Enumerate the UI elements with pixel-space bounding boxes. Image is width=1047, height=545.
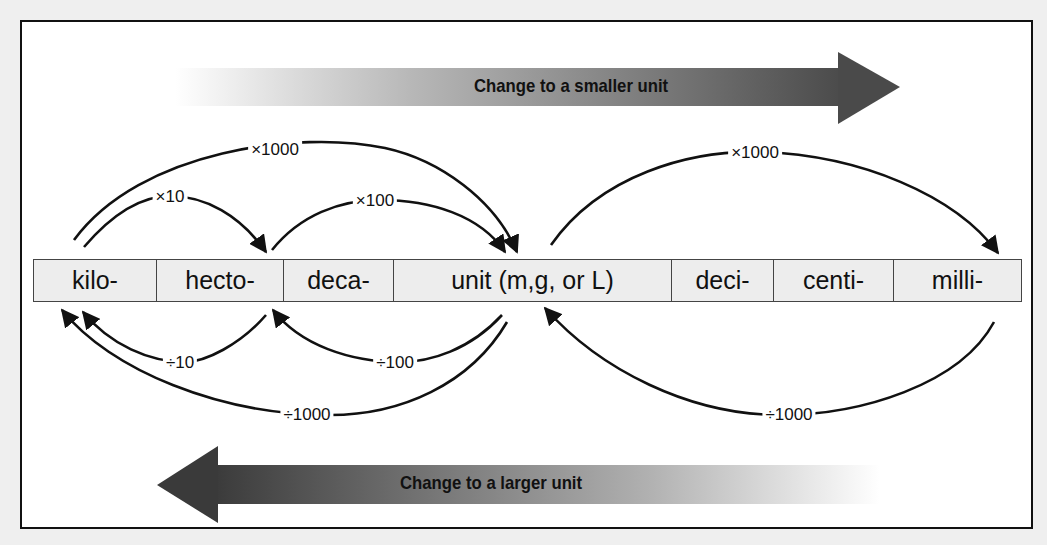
larger-unit-label: Change to a larger unit — [400, 472, 582, 494]
arc-div1000-left — [62, 310, 507, 415]
multiply-arcs — [74, 142, 998, 253]
metric-prefix-row: kilo- hecto- deca- unit (m,g, or L) deci… — [33, 259, 1022, 302]
unit-cell-deca: deca- — [284, 260, 394, 301]
smaller-unit-label: Change to a smaller unit — [474, 75, 668, 97]
arc-x1000-right — [551, 152, 998, 253]
label-x1000-right: ×1000 — [728, 143, 782, 163]
label-div1000-right: ÷1000 — [762, 405, 815, 425]
unit-cell-deci: deci- — [672, 260, 774, 301]
divide-arcs — [62, 308, 994, 415]
label-x10: ×10 — [153, 187, 188, 207]
label-div1000-left: ÷1000 — [280, 405, 333, 425]
unit-cell-milli: milli- — [894, 260, 1021, 301]
arc-div1000-right — [545, 308, 994, 415]
unit-cell-centi: centi- — [774, 260, 894, 301]
label-div100: ÷100 — [373, 353, 417, 373]
unit-cell-hecto: hecto- — [157, 260, 284, 301]
unit-cell-base: unit (m,g, or L) — [394, 260, 672, 301]
label-div10: ÷10 — [163, 353, 197, 373]
label-x100: ×100 — [353, 191, 397, 211]
unit-cell-kilo: kilo- — [34, 260, 157, 301]
label-x1000-left: ×1000 — [248, 140, 302, 160]
